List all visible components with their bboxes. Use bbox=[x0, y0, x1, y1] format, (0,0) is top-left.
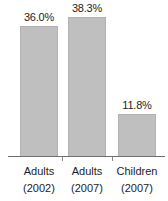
bar-group-children-2007: 11.8% bbox=[118, 0, 156, 157]
bar[interactable] bbox=[20, 26, 58, 157]
bar-group-adults-2007: 38.3% bbox=[68, 0, 106, 157]
x-axis-label-adults-2007: Adults (2007) bbox=[59, 163, 115, 197]
x-axis-label-line2: (2007) bbox=[108, 180, 166, 197]
bar-value-label: 38.3% bbox=[68, 2, 106, 14]
bar-value-label: 11.8% bbox=[118, 99, 156, 111]
bar[interactable] bbox=[118, 114, 156, 157]
x-axis-line bbox=[8, 156, 165, 157]
plot-area: 36.0% 38.3% 11.8% bbox=[0, 0, 168, 157]
bar-group-adults-2002: 36.0% bbox=[20, 0, 58, 157]
x-axis-label-line1: Children bbox=[108, 163, 166, 180]
x-axis-tick bbox=[112, 157, 113, 161]
x-axis-label-line1: Adults bbox=[59, 163, 115, 180]
x-axis-labels: Adults (2002) Adults (2007) Children (20… bbox=[0, 163, 168, 201]
bar-value-label: 36.0% bbox=[20, 11, 58, 23]
x-axis-label-line2: (2007) bbox=[59, 180, 115, 197]
x-axis-tick bbox=[62, 157, 63, 161]
bar[interactable] bbox=[68, 17, 106, 157]
bar-chart: 36.0% 38.3% 11.8% Adults (2002) Adults (… bbox=[0, 0, 168, 201]
x-axis-label-children-2007: Children (2007) bbox=[108, 163, 166, 197]
